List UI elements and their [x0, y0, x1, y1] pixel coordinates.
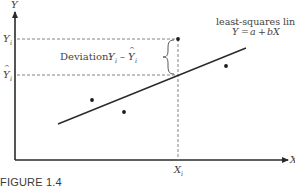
svg-text:i: i	[10, 39, 12, 47]
svg-text:i: i	[135, 57, 137, 65]
yi-tick-label: Y i	[3, 33, 12, 47]
svg-text:^: ^	[233, 22, 239, 30]
svg-text:–: –	[120, 51, 125, 62]
svg-text:Deviation:: Deviation:	[60, 51, 112, 62]
svg-text:bX: bX	[267, 26, 281, 37]
svg-text:i: i	[10, 75, 12, 83]
svg-text:i: i	[115, 57, 117, 65]
deviation-brace-icon	[163, 40, 174, 74]
figure-caption: FIGURE 1.4	[0, 176, 62, 188]
data-point	[90, 98, 94, 102]
x-axis-label: X	[289, 154, 295, 165]
observed-point	[176, 37, 180, 41]
data-point	[224, 64, 228, 68]
regression-diagram: Y X Y i Y ^ i X i Deviation: Y i – Y ^ i…	[0, 0, 295, 193]
data-point	[122, 110, 126, 114]
svg-text:^: ^	[129, 46, 135, 54]
svg-text:a: a	[250, 26, 256, 37]
yhat-tick-label: Y ^ i	[3, 64, 12, 83]
deviation-label: Deviation: Y i – Y ^ i	[60, 46, 137, 65]
y-axis-label: Y	[11, 0, 19, 10]
svg-text:i: i	[181, 170, 183, 178]
svg-text:^: ^	[4, 64, 10, 72]
svg-text:=: =	[241, 26, 249, 37]
xi-tick-label: X i	[173, 164, 183, 178]
svg-text:+: +	[258, 26, 266, 37]
